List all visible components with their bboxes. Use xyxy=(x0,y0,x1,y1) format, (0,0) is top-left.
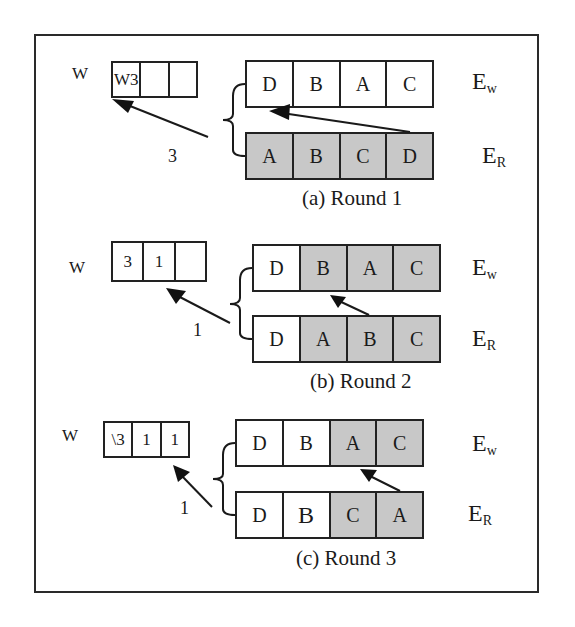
brace-icon xyxy=(213,443,235,515)
arrow-icon xyxy=(370,476,400,491)
arrowhead-icon xyxy=(360,469,377,482)
arrowhead-icon xyxy=(166,288,186,304)
arrowhead-icon xyxy=(269,104,290,120)
brace-icon xyxy=(223,84,245,156)
arrow-icon xyxy=(282,113,410,132)
connectors xyxy=(0,0,575,627)
arrowhead-icon xyxy=(173,465,190,482)
brace-icon xyxy=(230,268,252,339)
arrowhead-icon xyxy=(330,295,346,308)
arrowhead-icon xyxy=(112,99,134,113)
arrow-icon xyxy=(181,475,212,507)
arrow-icon xyxy=(176,295,230,323)
arrow-icon xyxy=(125,104,208,137)
